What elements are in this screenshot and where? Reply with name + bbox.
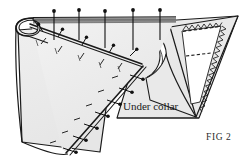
figure-caption: FIG 2 [206, 132, 231, 142]
figure-container: Under collar FIG 2 [0, 0, 246, 164]
under-collar-diagram: Under collar FIG 2 [0, 0, 246, 164]
under-collar-label: Under collar [123, 100, 179, 112]
